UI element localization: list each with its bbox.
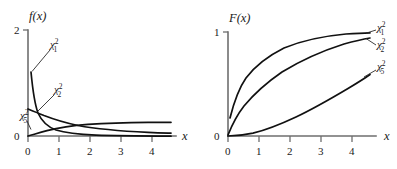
pdf-x-ticklabel-3: 3 — [118, 145, 124, 157]
cdf-y-axis-label: F(x) — [228, 11, 251, 25]
pdf-x-ticklabel-2: 2 — [87, 145, 93, 157]
cdf-leader-chi2 — [366, 39, 376, 46]
cdf-curve-chi1 — [230, 33, 370, 118]
pdf-plot-svg: χ21 χ22 χ25 f(x) x 2 0 0 1 2 3 4 — [0, 0, 198, 169]
cdf-y-ticklabel-0: 0 — [214, 130, 220, 142]
pdf-x-ticklabel-0: 0 — [25, 145, 31, 157]
cdf-label-chi2: χ22 — [376, 37, 386, 54]
cdf-y-ticklabel-1: 1 — [214, 26, 220, 38]
cdf-label-chi1: χ21 — [376, 20, 386, 37]
cdf-label-chi5: χ25 — [376, 59, 386, 76]
pdf-label-chi1: χ21 — [49, 37, 59, 54]
cdf-leader-chi1 — [366, 30, 376, 33]
pdf-label-chi2: χ22 — [53, 82, 63, 99]
pdf-leader-chi2 — [38, 95, 54, 111]
pdf-leader-chi1 — [32, 50, 50, 72]
chi-square-figure: χ21 χ22 χ25 f(x) x 2 0 0 1 2 3 4 — [0, 0, 397, 169]
pdf-y-ticklabel-2: 2 — [14, 24, 20, 36]
cdf-x-ticklabel-0: 0 — [225, 145, 231, 157]
cdf-plot-svg: χ21 χ22 χ25 F(x) x 1 0 0 1 2 3 4 — [198, 0, 397, 169]
pdf-x-axis-label: x — [181, 129, 188, 143]
pdf-x-ticklabel-4: 4 — [149, 145, 155, 157]
cdf-x-ticklabel-1: 1 — [256, 145, 262, 157]
cdf-curve-chi5 — [228, 75, 370, 137]
pdf-x-ticklabel-1: 1 — [56, 145, 62, 157]
cdf-curve-chi2 — [228, 38, 370, 135]
pdf-panel: χ21 χ22 χ25 f(x) x 2 0 0 1 2 3 4 — [0, 0, 198, 169]
cdf-panel: χ21 χ22 χ25 F(x) x 1 0 0 1 2 3 4 — [198, 0, 397, 169]
pdf-curve-chi1 — [31, 72, 171, 136]
pdf-y-axis-label: f(x) — [29, 9, 46, 23]
pdf-y-ticklabel-0: 0 — [14, 130, 20, 142]
cdf-x-axis-label: x — [383, 129, 390, 143]
cdf-x-ticklabel-3: 3 — [318, 145, 324, 157]
cdf-leader-chi5 — [364, 70, 376, 77]
cdf-x-ticklabel-4: 4 — [349, 145, 355, 157]
cdf-x-ticklabel-2: 2 — [287, 145, 293, 157]
